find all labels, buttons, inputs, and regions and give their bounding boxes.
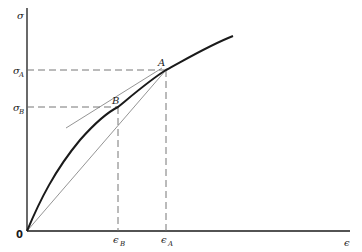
x-axis-label: ϵ [344, 237, 350, 248]
origin-label: 0 [16, 229, 23, 240]
stress-strain-diagram: σ ϵ 0 σ A σ B A B ϵ B ϵ A [0, 0, 362, 252]
secant-line [27, 70, 166, 231]
svg-text:ϵ: ϵ [113, 234, 119, 245]
svg-text:B: B [18, 108, 24, 116]
svg-text:ϵ: ϵ [161, 234, 167, 245]
point-b-label: B [111, 95, 119, 106]
sigma-a-label: σ A [13, 65, 24, 79]
svg-text:B: B [119, 240, 125, 248]
y-axis-label: σ [17, 10, 25, 21]
stress-strain-curve [27, 36, 233, 231]
epsilon-a-label: ϵ A [161, 234, 173, 248]
epsilon-b-label: ϵ B [113, 234, 125, 248]
svg-text:A: A [167, 240, 173, 248]
point-a-label: A [157, 57, 165, 68]
sigma-b-label: σ B [13, 102, 24, 116]
svg-text:A: A [18, 71, 24, 79]
